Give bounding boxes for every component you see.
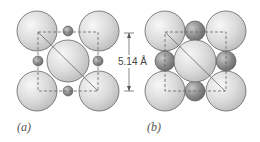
panel-a-label: (a) xyxy=(17,120,31,135)
crystal-diagram xyxy=(0,0,260,142)
dimension-label: 5.14 Å xyxy=(117,55,148,68)
panel-b-label: (b) xyxy=(147,120,161,135)
panel-a xyxy=(17,11,119,111)
panel-b xyxy=(145,11,246,111)
